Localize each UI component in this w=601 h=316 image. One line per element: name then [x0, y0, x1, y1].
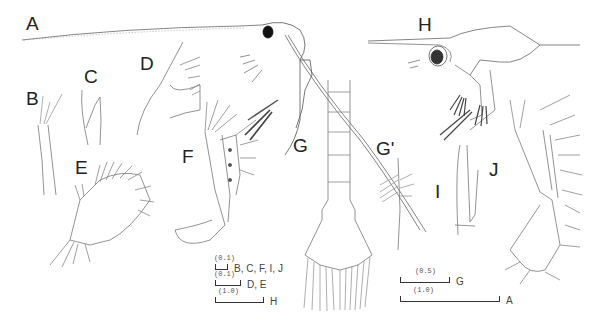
drawing-i	[455, 145, 478, 235]
drawing-h	[368, 26, 580, 140]
scalebar-label: H	[270, 296, 277, 307]
scalebar-h: (1.0) H	[213, 287, 323, 305]
drawing-a	[22, 22, 426, 232]
drawing-g-prime	[380, 158, 414, 250]
drawing-e	[50, 162, 154, 267]
panel-label-f: F	[182, 147, 194, 166]
scalebar-label: A	[506, 295, 513, 306]
scalebar-a: (1.0) A	[400, 286, 520, 304]
panel-label-c: C	[84, 67, 98, 86]
scalebar-value: (0.1)	[214, 270, 235, 278]
scalebar-g: (0.5) G	[400, 267, 520, 285]
scalebar-line	[215, 280, 241, 286]
drawing-f	[175, 100, 278, 243]
panel-label-g-prime: G'	[376, 139, 394, 158]
panel-label-j: J	[489, 160, 499, 179]
panel-label-a: A	[26, 14, 39, 33]
panel-label-h: H	[418, 15, 432, 34]
scalebar-value: (1.0)	[413, 286, 434, 294]
drawing-c	[82, 90, 101, 145]
panel-label-e: E	[75, 158, 88, 177]
scalebar-value: (0.5)	[415, 267, 436, 275]
scalebar-value: (0.1)	[214, 254, 235, 262]
scalebar-line	[215, 297, 264, 303]
drawing-j	[505, 95, 582, 284]
scalebar-value: (1.0)	[218, 287, 239, 295]
figure-plate: A B C D E F G G' H I J (0.1) B, C, F, I,…	[0, 0, 601, 316]
scalebar-line	[400, 296, 500, 302]
panel-label-i: I	[435, 182, 440, 201]
scalebar-line	[400, 277, 450, 283]
panel-label-d: D	[140, 54, 154, 73]
drawing-b	[38, 94, 62, 195]
panel-label-g: G	[293, 136, 308, 155]
panel-label-b: B	[26, 89, 39, 108]
scalebar-de: (0.1) D, E	[213, 270, 323, 288]
